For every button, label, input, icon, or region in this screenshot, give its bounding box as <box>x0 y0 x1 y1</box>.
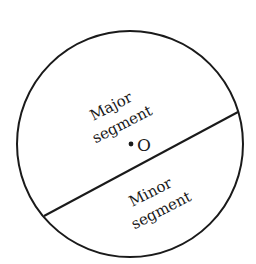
minor-segment-label: Minor segment <box>119 169 195 233</box>
circle-segments-diagram: O Major segment Minor segment <box>0 0 256 264</box>
center-point <box>129 142 134 147</box>
center-label: O <box>137 135 151 155</box>
